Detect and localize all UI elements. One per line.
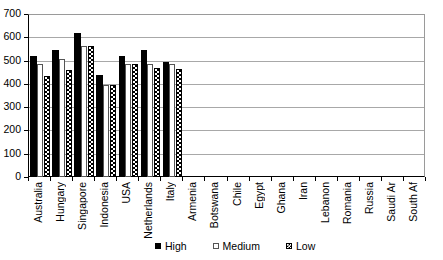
chart-legend: HighMediumLow [155,239,315,253]
x-tick-label-armenia: Armenia [187,182,198,221]
bar-low [66,70,72,177]
x-tick-label-russia: Russia [364,182,375,214]
x-tick-label-south-af: South Af [408,182,419,222]
bar-chart: 7006005004003002001000 AustraliaHungaryS… [0,0,443,260]
x-tick-label-indonesia: Indonesia [99,182,110,228]
bar-low [154,68,160,177]
legend-swatch-high-icon [155,243,161,249]
bar-low [88,46,94,177]
bar-low [44,76,50,177]
y-axis: 7006005004003002001000 [0,0,26,191]
legend-item-low[interactable]: Low [286,241,315,252]
legend-label: Low [296,241,315,252]
legend-swatch-low-icon [286,243,292,249]
legend-label: High [165,241,187,252]
x-tick-label-usa: USA [121,182,132,204]
y-tick-label: 300 [3,101,21,111]
x-tick-mark [293,177,294,181]
x-tick-mark [315,177,316,181]
bar-high [141,50,147,177]
legend-item-medium[interactable]: Medium [213,241,260,252]
bars-layer [29,15,424,177]
bar-low [176,69,182,177]
bar-medium [169,64,175,177]
legend-label: Medium [223,241,260,252]
legend-item-high[interactable]: High [155,241,187,252]
x-tick-mark [381,177,382,181]
x-tick-label-singapore: Singapore [77,182,88,230]
x-tick-mark [28,177,29,181]
bar-group [141,15,160,177]
x-tick-label-lebanon: Lebanon [320,182,331,223]
x-tick-mark [160,177,161,181]
bar-group [251,15,270,177]
bar-group [317,15,336,177]
x-tick-mark [116,177,117,181]
x-tick-label-romania: Romania [342,182,353,224]
x-tick-mark [227,177,228,181]
y-tick-label: 500 [3,55,21,65]
bar-medium [125,64,131,177]
bar-group [74,15,93,177]
x-tick-label-chile: Chile [232,182,243,206]
x-tick-label-saudi-ar: Saudi Ar [386,182,397,222]
bar-group [361,15,380,177]
bar-group [119,15,138,177]
bar-high [74,33,80,177]
bar-high [96,75,102,177]
bar-group [207,15,226,177]
bar-group [30,15,49,177]
bar-group [185,15,204,177]
legend-swatch-medium-icon [213,243,219,249]
bar-medium [103,85,109,177]
x-tick-label-australia: Australia [33,182,44,223]
x-tick-label-italy: Italy [165,182,176,201]
bar-group [52,15,71,177]
x-tick-label-ghana: Ghana [276,182,287,214]
bar-group [405,15,424,177]
y-tick-label: 400 [3,78,21,88]
bar-group [273,15,292,177]
bar-low [132,64,138,177]
bar-medium [37,64,43,177]
x-tick-mark [359,177,360,181]
bar-medium [81,46,87,177]
bar-group [96,15,115,177]
y-tick-label: 700 [3,8,21,18]
bar-high [119,56,125,177]
bar-high [52,50,58,177]
bar-group [295,15,314,177]
bar-group [339,15,358,177]
bar-group [229,15,248,177]
x-tick-mark [271,177,272,181]
y-tick-label: 100 [3,148,21,158]
x-tick-mark [138,177,139,181]
x-tick-mark [249,177,250,181]
x-tick-label-botswana: Botswana [209,182,220,228]
x-tick-label-iran: Iran [298,182,309,200]
x-tick-label-netherlands: Netherlands [143,182,154,239]
x-tick-mark [72,177,73,181]
y-tick-label: 200 [3,124,21,134]
bar-medium [59,59,65,177]
x-tick-mark [204,177,205,181]
x-tick-mark [425,177,426,181]
bar-high [30,56,36,178]
x-tick-mark [337,177,338,181]
bar-low [110,85,116,177]
bar-high [163,62,169,177]
bar-medium [147,64,153,177]
x-tick-label-egypt: Egypt [254,182,265,209]
x-tick-label-hungary: Hungary [55,182,66,222]
bar-group [163,15,182,177]
x-tick-mark [94,177,95,181]
x-tick-mark [50,177,51,181]
y-tick-label: 600 [3,31,21,41]
x-tick-mark [182,177,183,181]
y-tick-label: 0 [15,171,21,181]
x-tick-mark [403,177,404,181]
bar-group [383,15,402,177]
